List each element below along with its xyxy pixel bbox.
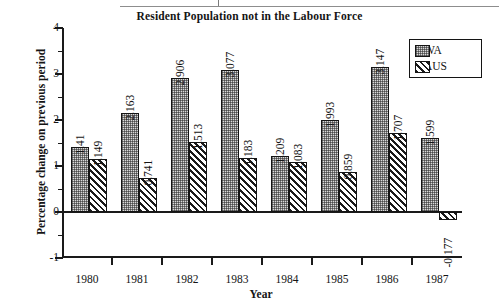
x-tick <box>261 257 263 265</box>
y-tick-label: -1 <box>31 252 59 264</box>
bar-value-label: 1.513 <box>193 124 205 150</box>
bar-value-label: 1.993 <box>325 102 337 128</box>
x-tick-label: 1982 <box>164 273 210 285</box>
x-tick-label: 1981 <box>114 273 160 285</box>
bar-aus-1987 <box>439 212 457 220</box>
x-tick <box>161 257 163 265</box>
x-tick <box>311 257 313 265</box>
y-tick-label: 1 <box>31 160 59 172</box>
bar-wa-1981 <box>121 113 139 212</box>
y-tick-label: 3 <box>31 68 59 80</box>
x-tick-label: 1985 <box>314 273 360 285</box>
y-tick-minor <box>58 51 63 52</box>
bar-value-label: 3.077 <box>225 52 237 78</box>
x-tick-label: 1984 <box>264 273 310 285</box>
bar-aus-1984 <box>289 162 307 212</box>
x-tick <box>211 257 213 265</box>
bar-aus-1983 <box>239 158 257 212</box>
bar-value-label: 1.083 <box>293 144 305 170</box>
x-tick-label: 1983 <box>214 273 260 285</box>
bar-wa-1987 <box>421 138 439 212</box>
page-rule-artifact <box>120 6 499 7</box>
bar-value-label: 1.209 <box>275 138 287 164</box>
x-tick <box>111 257 113 265</box>
bar-wa-1982 <box>171 78 189 212</box>
y-tick-label: 0 <box>31 206 59 218</box>
bar-value-label: 2.163 <box>125 94 137 120</box>
bar-wa-1985 <box>321 120 339 212</box>
bar-value-label: 0.859 <box>343 154 355 180</box>
y-axis-title: Percentage change on previous period <box>35 27 47 257</box>
bar-aus-1982 <box>189 142 207 212</box>
plot-area: 43210-1 19801981198219831984198519861987… <box>62 28 462 258</box>
chart-title: Resident Population not in the Labour Fo… <box>0 10 499 22</box>
bar-value-label: 1.149 <box>93 141 105 167</box>
chart-legend: WA AUS <box>409 39 482 78</box>
legend-item-wa: WA <box>415 44 442 58</box>
bar-value-label: 3.147 <box>375 49 387 75</box>
y-tick-minor <box>58 189 63 190</box>
bar-value-label: 1.41 <box>75 135 87 155</box>
x-axis-title: Year <box>60 288 462 300</box>
legend-item-aus: AUS <box>415 60 447 74</box>
legend-swatch-aus <box>415 61 430 73</box>
bar-wa-1986 <box>371 67 389 212</box>
bar-value-label: 0.741 <box>143 160 155 186</box>
bar-value-label: 2.906 <box>175 60 187 86</box>
legend-swatch-wa <box>415 45 430 57</box>
x-tick-label: 1987 <box>414 273 460 285</box>
y-tick-label: 4 <box>31 22 59 34</box>
bar-value-label: 1.599 <box>425 120 437 146</box>
bar-wa-1984 <box>271 156 289 212</box>
x-tick-label: 1980 <box>64 273 110 285</box>
bar-value-label: 1.183 <box>243 139 255 165</box>
bar-value-label: -0.177 <box>443 238 455 268</box>
bar-wa-1983 <box>221 70 239 212</box>
page-rule-tick-artifact <box>218 0 219 6</box>
y-tick-minor <box>58 97 63 98</box>
bar-aus-1986 <box>389 133 407 212</box>
x-tick <box>361 257 363 265</box>
chart-figure: Resident Population not in the Labour Fo… <box>0 0 499 308</box>
y-tick-label: 2 <box>31 114 59 126</box>
bar-value-label: 1.707 <box>393 115 405 141</box>
bar-wa-1980 <box>71 147 89 212</box>
y-tick-minor <box>58 235 63 236</box>
bar-aus-1980 <box>89 159 107 212</box>
x-tick <box>411 257 413 265</box>
x-tick-label: 1986 <box>364 273 410 285</box>
y-tick-minor <box>58 143 63 144</box>
